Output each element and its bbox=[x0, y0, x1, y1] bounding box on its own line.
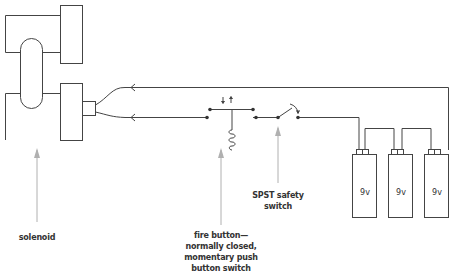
solenoid-connector bbox=[83, 102, 96, 116]
wire-to-battery-1 bbox=[298, 118, 359, 151]
solenoid-label: solenoid bbox=[12, 232, 62, 243]
fire-button-label-line-4: button switch bbox=[181, 263, 261, 274]
battery-2-label: 9v bbox=[389, 188, 413, 197]
bottom-wire-left bbox=[96, 112, 208, 118]
wire-battery-1-2 bbox=[365, 129, 394, 151]
fire-button-label-line-2: normally closed, bbox=[181, 241, 261, 252]
battery-1 bbox=[353, 150, 377, 218]
fire-button-label-line-1: fire button— bbox=[181, 230, 261, 241]
fire-button-label: fire button— normally closed, momentary … bbox=[181, 230, 261, 274]
battery-3-label: 9v bbox=[425, 188, 449, 197]
battery-1-label: 9v bbox=[353, 188, 377, 197]
wire-battery-2-3 bbox=[402, 129, 431, 151]
battery-2 bbox=[389, 150, 413, 218]
battery-3 bbox=[425, 150, 449, 218]
top-wire bbox=[96, 87, 449, 150]
fire-button-label-line-3: momentary push bbox=[181, 252, 261, 263]
safety-switch-label: SPST safety switch bbox=[238, 190, 318, 212]
fire-button-switch bbox=[210, 97, 253, 151]
spst-safety-switch bbox=[278, 104, 300, 118]
solenoid bbox=[6, 6, 96, 141]
